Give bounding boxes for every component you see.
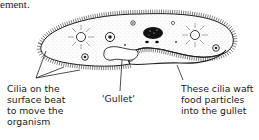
cilium bbox=[233, 36, 237, 37]
cilium bbox=[59, 62, 60, 66]
cilium bbox=[68, 63, 69, 67]
label-gullet-cilia: These cilia waft food particles into the… bbox=[181, 83, 259, 116]
cilium bbox=[62, 23, 64, 27]
cilium bbox=[80, 17, 81, 21]
cilium bbox=[88, 15, 89, 19]
leader-cilia-1 bbox=[36, 51, 46, 78]
cilium bbox=[38, 51, 42, 52]
food-vacuole bbox=[171, 21, 174, 24]
cilium bbox=[75, 64, 76, 68]
food-vacuole bbox=[213, 45, 220, 52]
cilium bbox=[77, 18, 78, 22]
cilium bbox=[46, 57, 48, 61]
cilium bbox=[225, 53, 227, 57]
cilium bbox=[67, 21, 68, 25]
cilium bbox=[43, 36, 46, 39]
leader-cilia-2 bbox=[36, 67, 64, 78]
cilium bbox=[232, 33, 236, 34]
cilium bbox=[69, 21, 70, 25]
cilium bbox=[84, 16, 85, 20]
cilium bbox=[82, 17, 83, 21]
cilium bbox=[72, 64, 73, 68]
cilium bbox=[58, 25, 60, 29]
cilium bbox=[229, 26, 232, 29]
granule bbox=[124, 44, 126, 46]
cilium bbox=[86, 16, 87, 20]
cilium bbox=[230, 49, 233, 52]
cilium bbox=[57, 61, 58, 65]
cilium bbox=[104, 12, 105, 16]
cilium bbox=[232, 45, 236, 47]
cilium bbox=[223, 54, 225, 58]
cilium bbox=[71, 20, 72, 24]
macronucleus bbox=[143, 27, 163, 39]
cilium bbox=[66, 63, 67, 67]
label-gullet: 'Gullet' bbox=[102, 93, 135, 104]
cilium bbox=[65, 22, 66, 26]
cilium bbox=[99, 13, 100, 17]
cilium bbox=[93, 14, 94, 18]
cilium bbox=[231, 31, 235, 33]
cilium bbox=[231, 47, 234, 49]
cilium bbox=[55, 60, 56, 64]
label-surface-cilia: Cilia on the surface beat to move the or… bbox=[7, 83, 77, 127]
cilium bbox=[39, 40, 42, 42]
food-vacuole bbox=[106, 33, 115, 42]
cilium bbox=[228, 51, 231, 54]
cilium bbox=[41, 38, 44, 40]
cilium bbox=[75, 19, 76, 23]
cilium bbox=[227, 52, 229, 55]
cilium bbox=[126, 65, 127, 69]
cilium bbox=[50, 59, 51, 63]
cilium bbox=[52, 60, 53, 64]
cilium bbox=[48, 58, 50, 62]
cilium bbox=[102, 13, 103, 17]
food-vacuole bbox=[131, 21, 135, 25]
cilium bbox=[128, 64, 129, 68]
food-vacuole bbox=[82, 54, 89, 61]
cilium bbox=[230, 28, 233, 30]
cilium bbox=[73, 19, 74, 23]
cilium bbox=[61, 62, 62, 66]
granule bbox=[175, 41, 177, 43]
cilium bbox=[106, 12, 107, 16]
cilium bbox=[64, 62, 65, 66]
cilium bbox=[97, 14, 98, 18]
cilium bbox=[70, 64, 71, 68]
leader-gullet-cilia bbox=[177, 65, 183, 80]
cilium bbox=[60, 24, 62, 28]
cilium bbox=[91, 15, 92, 19]
leader-cilia-3 bbox=[36, 70, 80, 78]
cilium bbox=[37, 46, 41, 47]
cilium bbox=[39, 53, 42, 55]
cilium bbox=[233, 43, 237, 44]
cilium bbox=[95, 14, 96, 18]
